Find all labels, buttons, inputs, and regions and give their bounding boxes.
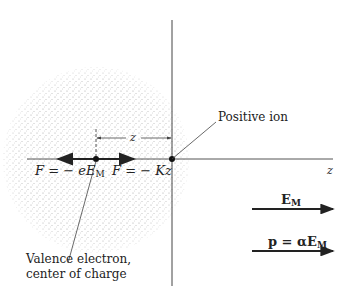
dipole-label: p = αEM [268,235,327,250]
figure: F = − eEM F = − Kz z z Positive ion Vale… [0,0,349,304]
displacement-label: z [130,132,136,143]
axis-label: z [327,165,333,176]
field-label: EM [281,193,301,208]
valence-electron-label: Valence electron, [26,253,131,265]
force-restoring-label: F = − Kz [112,164,172,177]
center-of-charge-label: center of charge [26,268,127,280]
positive-ion-label: Positive ion [218,111,288,123]
force-electric-label: F = − eEM [35,164,105,179]
